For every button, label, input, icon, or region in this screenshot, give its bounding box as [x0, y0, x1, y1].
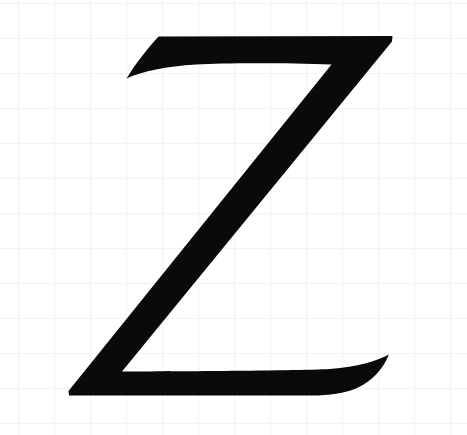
glyph-canvas: Black calligraphic capital letter Z	[0, 0, 467, 435]
letter-glyph-layer: Black calligraphic capital letter Z	[0, 0, 467, 435]
letter-z-glyph	[69, 36, 393, 396]
